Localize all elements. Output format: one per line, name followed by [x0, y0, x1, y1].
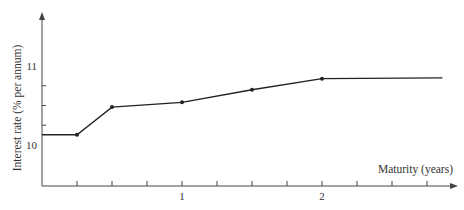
- x-axis-label: Maturity (years): [378, 163, 453, 176]
- y-axis-label: Interest rate (% per annum): [11, 45, 24, 172]
- y-axis-arrow-icon: [39, 12, 45, 20]
- series: [42, 77, 442, 137]
- data-point-marker: [180, 100, 184, 104]
- data-point-marker: [110, 105, 114, 109]
- series-line: [42, 78, 442, 135]
- x-tick-label: 1: [179, 190, 185, 202]
- x-tick-label: 2: [319, 190, 325, 202]
- zero-rate-chart: 121011 Interest rate (% per annum) Matur…: [0, 0, 464, 210]
- data-point-marker: [250, 88, 254, 92]
- y-tick-label: 10: [26, 139, 38, 151]
- x-axis-arrow-icon: [450, 183, 458, 189]
- data-point-marker: [320, 77, 324, 81]
- y-tick-label: 11: [26, 60, 37, 72]
- data-point-marker: [75, 133, 79, 137]
- ticks: 121011: [26, 60, 427, 202]
